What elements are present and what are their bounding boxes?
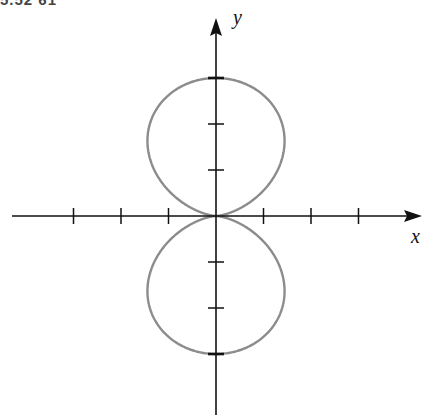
polar-plot [0,0,428,415]
x-axis-label: x [411,225,420,248]
y-axis-label: y [233,6,242,29]
